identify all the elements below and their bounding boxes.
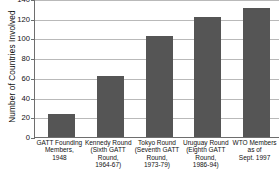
bar-series <box>35 0 279 138</box>
x-axis-label-line: (Seventh GATT <box>133 146 182 153</box>
x-axis-label: Uruguay Round(Eighth GATTRound,1986-94) <box>181 139 230 169</box>
x-axis-label-line: 1986-94) <box>181 161 230 168</box>
y-tick-label: 120 <box>17 16 30 24</box>
x-axis-label-line: Uruguay Round <box>181 139 230 146</box>
y-tick-label: 20 <box>22 114 30 122</box>
x-axis-label-line: Sept. 1997 <box>230 154 279 161</box>
y-tick-label: 60 <box>22 75 30 83</box>
x-axis-label-line: as of <box>230 146 279 153</box>
x-axis-label-line: (Eighth GATT <box>181 146 230 153</box>
x-axis-label-line: GATT Founding <box>35 139 84 146</box>
x-axis-label-line: Tokyo Round <box>133 139 182 146</box>
x-axis-label: Tokyo Round(Seventh GATTRound,1973-79) <box>133 139 182 169</box>
bar <box>243 8 270 137</box>
y-tick-label: 140 <box>17 0 30 4</box>
y-tick-label: 80 <box>22 55 30 63</box>
x-axis-label-line: Round, <box>181 154 230 161</box>
x-axis-label-line: Members, <box>35 146 84 153</box>
bar <box>48 114 75 137</box>
bar <box>146 36 173 137</box>
x-axis-label: Kennedy Round(Sixth GATTRound,1964-67) <box>84 139 133 169</box>
x-axis-label-line: 1973-79) <box>133 161 182 168</box>
bar <box>97 76 124 137</box>
x-axis-label-line: Round, <box>133 154 182 161</box>
bar-chart: Number of Countries Involved 02040608010… <box>0 0 279 175</box>
bar <box>194 17 221 137</box>
x-axis-label-line: 1964-67) <box>84 161 133 168</box>
y-tick-label: 40 <box>22 95 30 103</box>
x-axis-label-line: Kennedy Round <box>84 139 133 146</box>
x-axis-label-line: Round, <box>84 154 133 161</box>
x-axis-category-labels: GATT FoundingMembers,1948Kennedy Round(S… <box>35 139 279 175</box>
y-axis-title: Number of Countries Involved <box>8 2 17 132</box>
x-axis-label: GATT FoundingMembers,1948 <box>35 139 84 161</box>
plot-area: 020406080100120140 <box>35 0 279 138</box>
x-axis-label: WTO Membersas ofSept. 1997 <box>230 139 279 161</box>
x-axis-label-line: (Sixth GATT <box>84 146 133 153</box>
y-tick-label: 100 <box>17 35 30 43</box>
y-tick-label: 0 <box>26 134 30 142</box>
x-axis-label-line: 1948 <box>35 154 84 161</box>
x-axis-label-line: WTO Members <box>230 139 279 146</box>
